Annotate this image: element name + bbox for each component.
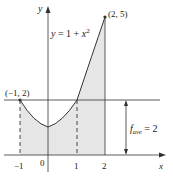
x-tick-neg1: −1 bbox=[14, 161, 24, 171]
point-right-label: (2, 5) bbox=[108, 9, 128, 19]
x-axis-label: x bbox=[158, 161, 163, 171]
point-left-label: (−1, 2) bbox=[5, 88, 30, 98]
point-left-marker bbox=[18, 98, 21, 101]
x-tick-2: 2 bbox=[102, 161, 107, 171]
y-axis-arrow-icon bbox=[46, 6, 51, 13]
x-axis-arrow-icon bbox=[159, 153, 166, 158]
x-tick-1: 1 bbox=[74, 161, 79, 171]
point-right-marker bbox=[103, 15, 106, 18]
y-axis-label: y bbox=[37, 3, 43, 14]
favg-arrow-down-icon bbox=[124, 149, 128, 155]
x-tick-0: 0 bbox=[40, 158, 45, 168]
average-value-figure: y x y = 1 + x2 (2, 5) (−1, 2) fave = 2 −… bbox=[0, 0, 173, 176]
curve-equation-label: y = 1 + x2 bbox=[50, 27, 90, 39]
favg-label: fave = 2 bbox=[130, 123, 157, 135]
favg-arrow-up-icon bbox=[124, 100, 128, 106]
